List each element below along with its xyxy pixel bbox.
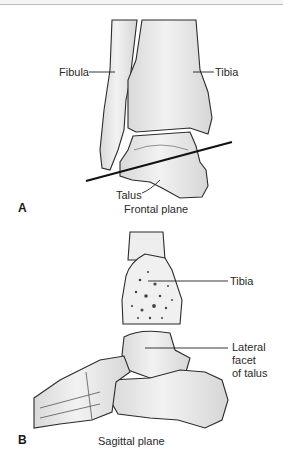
calcaneus-bone: [110, 370, 228, 428]
panel-b-drawing: [34, 232, 228, 428]
label-tibia-a: Tibia: [215, 66, 238, 78]
panel-a-caption: Frontal plane: [124, 203, 188, 215]
label-lateral-facet-3: of talus: [232, 367, 267, 379]
label-lateral-facet-1: Lateral: [232, 341, 266, 353]
panel-b-caption: Sagittal plane: [98, 435, 165, 447]
ankle-illustration: [0, 0, 283, 460]
panel-a-letter: A: [18, 201, 27, 215]
label-tibia-b: Tibia: [230, 275, 253, 287]
label-fibula: Fibula: [59, 66, 89, 78]
tibia-bone: [128, 20, 212, 134]
panel-a-drawing: [100, 20, 212, 198]
panel-b-letter: B: [18, 433, 27, 447]
label-lateral-facet-2: facet: [232, 354, 256, 366]
tibia-distal: [122, 254, 182, 324]
label-talus: Talus: [116, 189, 142, 201]
